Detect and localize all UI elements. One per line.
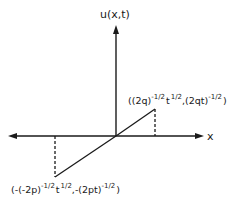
left-arrow-icon [8,133,17,139]
lower-segment [55,136,116,177]
diagram-canvas: u(x,t) x ((2q)-1/2t1/2,(2qt)-1/2) (-(-2p… [0,0,251,205]
y-axis [113,25,119,136]
upper-point-label: ((2q)-1/2t1/2,(2qt)-1/2) [128,93,227,106]
upper-segment [116,109,155,136]
y-axis-label: u(x,t) [100,8,130,21]
x-axis-label: x [207,130,214,143]
right-arrow-icon [195,133,204,139]
x-axis [8,133,204,139]
lower-point-label: (-(-2p)-1/2t1/2,-(2pt)-1/2) [11,182,120,195]
up-arrow-icon [113,25,119,34]
